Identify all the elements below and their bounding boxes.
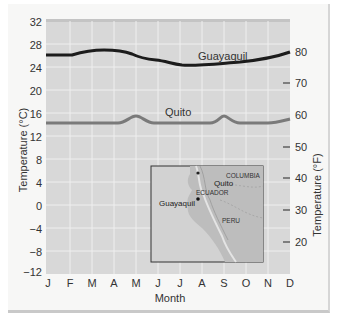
svg-text:80: 80	[295, 46, 307, 58]
svg-text:20: 20	[295, 236, 307, 248]
svg-text:J: J	[45, 277, 51, 289]
series-quito-label: Quito	[165, 106, 191, 118]
svg-text:50: 50	[295, 141, 307, 153]
guayaquil-marker	[196, 197, 200, 201]
quito-marker	[196, 171, 199, 174]
svg-text:J: J	[155, 277, 161, 289]
x-axis-title: Month	[155, 292, 186, 304]
map-label-peru: PERU	[222, 217, 240, 224]
x-axis: J F M A M J J A S O N D	[45, 277, 294, 289]
svg-text:F: F	[67, 277, 74, 289]
svg-text:0: 0	[36, 200, 42, 212]
svg-text:70: 70	[295, 77, 307, 89]
svg-text:28: 28	[30, 39, 42, 51]
series-guayaquil-label: Guayaquil	[198, 50, 248, 62]
svg-text:M: M	[87, 277, 96, 289]
svg-text:24: 24	[30, 62, 42, 74]
svg-text:M: M	[131, 277, 140, 289]
svg-text:N: N	[264, 277, 272, 289]
map-label-quito: Quito	[214, 179, 234, 188]
svg-text:D: D	[286, 277, 294, 289]
svg-text:60: 60	[295, 109, 307, 121]
svg-text:12: 12	[30, 131, 42, 143]
y-axis-right-title: Temperature (°F)	[311, 153, 323, 236]
svg-text:20: 20	[30, 85, 42, 97]
svg-text:40: 40	[295, 172, 307, 184]
y-axis-right: 80 70 60 50 40 30 20	[295, 46, 307, 248]
chart-svg: 32 28 24 20 16 12 8 4 0 −4 −8 −12 Temper…	[0, 0, 340, 324]
svg-text:S: S	[220, 277, 227, 289]
svg-text:J: J	[177, 277, 183, 289]
svg-text:4: 4	[36, 177, 42, 189]
svg-text:A: A	[110, 277, 118, 289]
svg-text:−8: −8	[29, 246, 42, 258]
map-label-ecuador: ECUADOR	[196, 189, 229, 196]
svg-text:32: 32	[30, 16, 42, 28]
map-inset: COLUMBIA Quito ECUADOR Guayaquil PERU	[151, 166, 263, 262]
svg-text:8: 8	[36, 154, 42, 166]
svg-text:O: O	[242, 277, 251, 289]
svg-text:30: 30	[295, 204, 307, 216]
svg-text:16: 16	[30, 108, 42, 120]
map-label-guayaquil: Guayaquil	[159, 199, 195, 208]
svg-text:−12: −12	[23, 266, 42, 278]
svg-text:A: A	[198, 277, 206, 289]
y-axis-left-title: Temperature (°C)	[17, 108, 29, 192]
plot-top-border	[46, 19, 290, 22]
svg-text:−4: −4	[29, 223, 42, 235]
map-label-colombia: COLUMBIA	[226, 172, 261, 179]
